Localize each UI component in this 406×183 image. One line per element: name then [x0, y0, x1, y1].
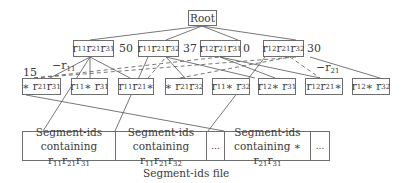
cell-line2: containing r11r21r31	[23, 139, 115, 167]
lattice-node-r12r21-star: r12 r21∗	[305, 78, 343, 95]
count-label: 50	[119, 43, 133, 54]
cell-line1: Segment-ids	[234, 125, 300, 139]
lattice-node-r11-star-r32: r11 ∗ r32	[212, 78, 250, 95]
file-cell-star-r21r31: Segment-ids containing ∗ r21r31	[224, 131, 310, 161]
lattice-node-star-r21r32: ∗ r21r32	[165, 78, 203, 95]
lattice-node-r11r21-star: r11r21∗	[118, 78, 154, 95]
lattice-node-r12-star-r31: r12 ∗ r31	[258, 78, 296, 95]
root-node: Root	[188, 10, 217, 26]
count-label: 30	[307, 43, 321, 54]
count-label: 15	[23, 67, 37, 78]
lattice-node-star-r21r31: ∗ r21r31	[22, 78, 61, 95]
ellipsis: ...	[316, 139, 325, 153]
lattice-node-r11-star-r31: r11 ∗ r31	[71, 78, 108, 95]
lattice-node-r12-star-r32: r12 ∗ r32	[352, 78, 390, 95]
cell-line1: Segment-ids	[36, 125, 102, 139]
cell-line2: containing r11r21r32	[116, 139, 206, 167]
count-label: 0	[243, 43, 250, 54]
edge-label-minus-r21: −r21	[316, 62, 339, 73]
count-label: 37	[183, 43, 197, 54]
lattice-node-r12r21r31: r12r21r31	[200, 40, 241, 57]
file-cell-r11r21r31: Segment-ids containing r11r21r31	[22, 131, 115, 161]
file-cell-ellipsis: ...	[206, 131, 224, 161]
root-label: Root	[190, 13, 215, 24]
lattice-node-r11r21r32: r11r21r32	[138, 40, 179, 57]
lattice-node-r11r21r31: r11r21r31	[73, 40, 114, 57]
file-cell-r11r21r32: Segment-ids containing r11r21r32	[115, 131, 206, 161]
ellipsis: ...	[211, 139, 220, 153]
file-caption: Segment-ids file	[143, 167, 229, 179]
file-cell-ellipsis: ...	[310, 131, 330, 161]
cell-line2: containing ∗ r21r31	[225, 139, 310, 167]
edge-label-minus-r11: −r11	[52, 60, 75, 71]
cell-line1: Segment-ids	[128, 125, 194, 139]
lattice-node-r12r21r32: r12r21r32	[263, 40, 304, 57]
